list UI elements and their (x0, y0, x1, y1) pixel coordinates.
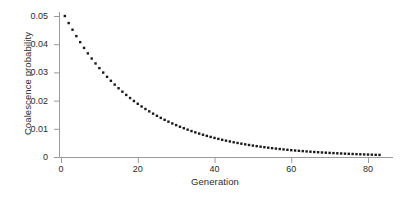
data-point-marker (117, 87, 119, 89)
data-point-marker (294, 149, 296, 151)
data-point-markers (64, 15, 381, 156)
data-point-marker (133, 100, 135, 102)
data-point-marker (75, 35, 77, 37)
data-point-marker (232, 141, 234, 143)
data-point-marker (259, 145, 261, 147)
data-point-marker (252, 144, 254, 146)
data-point-marker (163, 119, 165, 121)
data-point-marker (378, 154, 380, 156)
data-point-marker (217, 138, 219, 140)
data-point-marker (221, 139, 223, 141)
data-point-marker (309, 151, 311, 153)
data-point-marker (325, 151, 327, 153)
x-axis-tick-label: 80 (348, 164, 388, 174)
y-axis-ticks (54, 17, 60, 158)
x-axis-tick-label: 0 (41, 164, 81, 174)
data-point-marker (94, 62, 96, 64)
data-point-marker (332, 152, 334, 154)
data-point-marker (275, 147, 277, 149)
y-axis-title: Coalescence probability (22, 4, 33, 164)
data-point-marker (355, 153, 357, 155)
data-point-marker (102, 71, 104, 73)
axis-lines (60, 12, 394, 158)
data-point-marker (263, 146, 265, 148)
data-point-marker (271, 147, 273, 149)
data-point-marker (225, 139, 227, 141)
data-point-marker (229, 140, 231, 142)
data-point-marker (279, 148, 281, 150)
data-point-marker (183, 127, 185, 129)
data-point-marker (367, 153, 369, 155)
data-point-marker (209, 136, 211, 138)
data-point-marker (313, 151, 315, 153)
x-axis-tick-label: 20 (118, 164, 158, 174)
x-axis-ticks (62, 158, 369, 164)
data-point-marker (344, 152, 346, 154)
data-point-marker (194, 131, 196, 133)
data-point-marker (340, 152, 342, 154)
data-point-marker (156, 115, 158, 117)
data-point-marker (236, 142, 238, 144)
data-point-marker (328, 152, 330, 154)
data-point-marker (359, 153, 361, 155)
data-point-marker (114, 83, 116, 85)
data-point-marker (71, 29, 73, 31)
data-point-marker (79, 41, 81, 43)
data-point-marker (171, 122, 173, 124)
data-point-marker (64, 15, 66, 17)
data-point-marker (110, 80, 112, 82)
data-point-marker (179, 126, 181, 128)
data-point-marker (125, 94, 127, 96)
data-point-marker (144, 108, 146, 110)
data-point-marker (267, 146, 269, 148)
data-point-marker (129, 97, 131, 99)
x-axis-title: Generation (135, 176, 295, 187)
x-axis-tick-label: 40 (195, 164, 235, 174)
data-point-marker (282, 148, 284, 150)
data-point-marker (256, 145, 258, 147)
data-point-marker (186, 128, 188, 130)
data-point-marker (298, 150, 300, 152)
data-point-marker (202, 134, 204, 136)
data-point-marker (152, 112, 154, 114)
data-point-marker (363, 153, 365, 155)
data-point-marker (321, 151, 323, 153)
data-point-marker (106, 76, 108, 78)
data-point-marker (98, 67, 100, 69)
x-axis-tick-label: 60 (271, 164, 311, 174)
data-point-marker (305, 150, 307, 152)
data-point-marker (198, 132, 200, 134)
data-point-marker (160, 117, 162, 119)
data-point-marker (248, 144, 250, 146)
data-point-marker (240, 142, 242, 144)
data-point-marker (148, 110, 150, 112)
data-point-marker (87, 52, 89, 54)
data-point-marker (206, 135, 208, 137)
chart-figure: 00.010.020.030.040.05 020406080 Coalesce… (0, 0, 401, 198)
data-point-marker (67, 22, 69, 24)
data-point-marker (121, 90, 123, 92)
data-point-marker (244, 143, 246, 145)
data-point-marker (83, 47, 85, 49)
data-point-marker (167, 120, 169, 122)
data-point-marker (190, 130, 192, 132)
data-point-marker (371, 153, 373, 155)
data-point-marker (213, 137, 215, 139)
data-point-marker (91, 57, 93, 59)
data-point-marker (302, 150, 304, 152)
data-point-marker (336, 152, 338, 154)
data-point-marker (290, 149, 292, 151)
data-point-marker (317, 151, 319, 153)
data-point-marker (137, 103, 139, 105)
data-point-marker (286, 149, 288, 151)
plot-area: 00.010.020.030.040.05 020406080 (0, 0, 401, 198)
data-point-marker (348, 153, 350, 155)
data-point-marker (175, 124, 177, 126)
data-point-marker (351, 153, 353, 155)
data-point-marker (374, 154, 376, 156)
data-point-marker (140, 105, 142, 107)
